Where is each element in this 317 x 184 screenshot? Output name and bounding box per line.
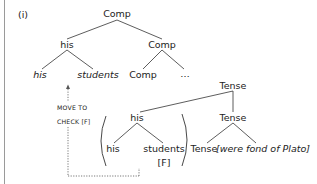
node-students-noun: students bbox=[143, 144, 184, 154]
node-his-subject: his bbox=[130, 113, 144, 123]
node-root-comp: Comp bbox=[103, 9, 131, 19]
example-label: (i) bbox=[18, 10, 28, 20]
annotation-move-to: MOVE TO bbox=[57, 105, 87, 111]
node-tense-bar: Tense bbox=[220, 113, 247, 123]
node-his-moved: his bbox=[33, 70, 47, 80]
node-ellipsis: … bbox=[180, 69, 190, 79]
node-tense-head: Tense bbox=[191, 144, 218, 154]
node-students-moved: students bbox=[77, 70, 118, 80]
feature-label: [F] bbox=[158, 158, 171, 168]
node-comp-bar: Comp bbox=[148, 40, 176, 50]
node-his-det: his bbox=[106, 144, 120, 154]
annotation-check-f: CHECK [F] bbox=[57, 119, 90, 125]
node-vp: [were fond of Plato] bbox=[216, 144, 310, 154]
node-comp-head: Comp bbox=[129, 70, 157, 80]
node-his-phrase: his bbox=[60, 40, 74, 50]
node-tense-phrase: Tense bbox=[220, 81, 247, 91]
